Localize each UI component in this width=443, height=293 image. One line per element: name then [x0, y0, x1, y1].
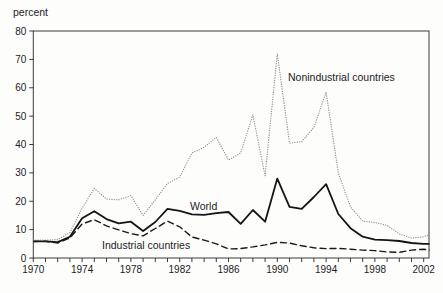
y-tick-label: 70 [15, 54, 27, 65]
x-tick-label: 1994 [315, 264, 338, 275]
inflation-line-chart: percent 01020304050607080 19701974197819… [0, 0, 443, 293]
y-tick-label: 0 [21, 253, 27, 264]
y-tick-label: 40 [15, 139, 27, 150]
x-tick-label: 1998 [364, 264, 387, 275]
y-tick-label: 60 [15, 82, 27, 93]
inflation-figure: percent 01020304050607080 19701974197819… [0, 0, 443, 293]
x-tick-label: 1978 [120, 264, 143, 275]
series-lines [33, 54, 436, 253]
x-tick-label: 1974 [71, 264, 94, 275]
y-tick-label: 30 [15, 167, 27, 178]
y-tick-label: 20 [15, 196, 27, 207]
x-tick-label: 1982 [169, 264, 192, 275]
x-tick-label: 1990 [266, 264, 289, 275]
series-label-world: World [190, 200, 217, 212]
industrial-line [33, 220, 436, 253]
series-label-nonindustrial: Nonindustrial countries [288, 71, 395, 83]
y-tick-label: 50 [15, 111, 27, 122]
y-axis-ticks: 01020304050607080 [15, 26, 33, 264]
y-tick-label: 80 [15, 26, 27, 37]
x-axis-ticks: 197019741978198219861990199419982002 [22, 258, 435, 275]
plot-frame [33, 31, 429, 258]
y-tick-label: 10 [15, 224, 27, 235]
x-tick-label: 1986 [217, 264, 240, 275]
series-inline-labels: Nonindustrial countries World Industrial… [102, 71, 395, 251]
y-axis-title: percent [13, 6, 48, 18]
x-tick-label: 2002 [413, 264, 436, 275]
series-label-industrial: Industrial countries [102, 239, 190, 251]
x-tick-label: 1970 [22, 264, 45, 275]
